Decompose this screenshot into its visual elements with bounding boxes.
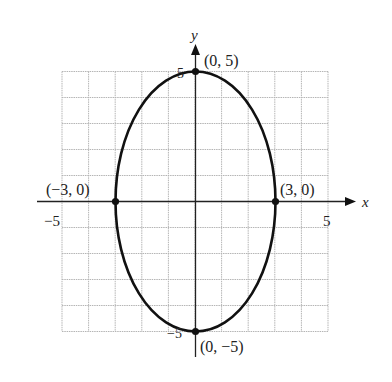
label-left: (−3, 0) <box>46 181 90 199</box>
x-axis-label: x <box>361 194 369 210</box>
ellipse-chart: y x −5 5 5 −5 (0, 5) (3, 0) (0, −5) (−3,… <box>0 0 392 382</box>
point-left <box>112 198 119 205</box>
y-axis-arrow-icon <box>191 44 200 55</box>
label-bottom: (0, −5) <box>200 338 244 356</box>
point-right <box>272 198 279 205</box>
label-right: (3, 0) <box>280 181 315 199</box>
y-axis-label: y <box>189 27 198 43</box>
point-top <box>192 68 199 75</box>
x-tick-5: 5 <box>323 213 331 229</box>
x-axis-arrow-icon <box>345 197 356 206</box>
point-bottom <box>192 328 199 335</box>
y-tick-neg5: −5 <box>167 326 182 341</box>
x-tick-neg5: −5 <box>44 213 60 229</box>
label-top: (0, 5) <box>204 52 239 70</box>
y-tick-5: 5 <box>177 66 184 81</box>
